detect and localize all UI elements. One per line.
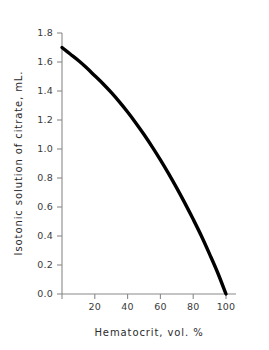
y-tick-label: 1.0 <box>37 143 53 154</box>
x-axis: 20 40 60 80 100 <box>62 294 236 312</box>
x-tick-label: 80 <box>187 301 200 312</box>
y-tick-label: 1.6 <box>37 56 53 67</box>
x-tick-label: 100 <box>217 301 236 312</box>
y-tick-label: 1.8 <box>37 27 53 38</box>
line-chart: 0.0 0.2 0.4 0.6 0.8 1.0 1.2 1.4 1.6 1.8 <box>0 0 269 350</box>
y-tick-label: 1.2 <box>37 114 53 125</box>
y-axis: 0.0 0.2 0.4 0.6 0.8 1.0 1.2 1.4 1.6 1.8 <box>37 27 62 299</box>
y-tick-label: 1.4 <box>37 85 53 96</box>
x-axis-title: Hematocrit, vol. % <box>94 327 203 338</box>
y-tick-marks <box>57 33 62 294</box>
y-tick-label: 0.4 <box>37 230 53 241</box>
y-tick-label: 0.0 <box>37 288 53 299</box>
x-tick-label: 20 <box>89 301 102 312</box>
x-tick-marks <box>62 294 226 299</box>
chart-figure: 0.0 0.2 0.4 0.6 0.8 1.0 1.2 1.4 1.6 1.8 <box>0 0 269 350</box>
y-tick-label: 0.8 <box>37 172 53 183</box>
data-series-line <box>62 48 226 295</box>
x-tick-label: 60 <box>154 301 167 312</box>
x-tick-label: 40 <box>121 301 134 312</box>
y-tick-label: 0.6 <box>37 201 53 212</box>
y-axis-title: Isotonic solution of citrate, mL. <box>13 71 24 256</box>
y-tick-label: 0.2 <box>37 259 53 270</box>
y-tick-labels: 0.0 0.2 0.4 0.6 0.8 1.0 1.2 1.4 1.6 1.8 <box>37 27 53 299</box>
x-tick-labels: 20 40 60 80 100 <box>89 301 236 312</box>
